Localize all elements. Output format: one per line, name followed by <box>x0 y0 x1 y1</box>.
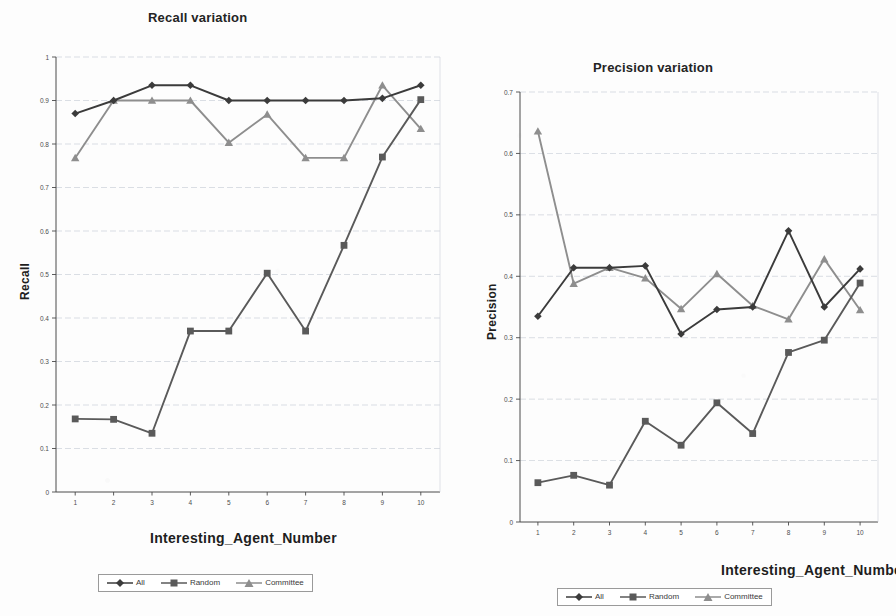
legend-label-random: Random <box>190 579 220 587</box>
recall-x-axis-title: Interesting_Agent_Number <box>150 530 337 546</box>
svg-text:0.6: 0.6 <box>504 150 513 157</box>
svg-text:8: 8 <box>787 529 791 536</box>
svg-text:2: 2 <box>112 499 116 506</box>
svg-text:0.2: 0.2 <box>40 402 49 409</box>
svg-text:10: 10 <box>856 529 864 536</box>
svg-text:0.6: 0.6 <box>40 228 49 235</box>
legend-entry-random-2: Random <box>620 592 679 602</box>
svg-text:0.5: 0.5 <box>40 271 49 278</box>
svg-text:3: 3 <box>150 499 154 506</box>
legend-entry-all-2: All <box>566 592 604 602</box>
legend-entry-random: Random <box>161 578 220 588</box>
svg-text:10: 10 <box>417 499 425 506</box>
svg-text:1: 1 <box>73 499 77 506</box>
svg-text:0.8: 0.8 <box>40 141 49 148</box>
legend-label-all: All <box>136 579 145 587</box>
svg-text:0.5: 0.5 <box>504 211 513 218</box>
precision-plot-area: 00.10.20.30.40.50.60.712345678910 <box>455 0 896 560</box>
svg-text:0.1: 0.1 <box>40 445 49 452</box>
svg-text:0.9: 0.9 <box>40 97 49 104</box>
legend-label-committee: Committee <box>265 579 304 587</box>
svg-text:9: 9 <box>381 499 385 506</box>
figure-page: Recall variation Recall Interesting_Agen… <box>0 0 896 616</box>
diamond-marker-icon <box>566 592 592 602</box>
svg-text:3: 3 <box>608 529 612 536</box>
precision-chart-panel: Precision variation Precision Interestin… <box>455 0 896 616</box>
svg-text:9: 9 <box>822 529 826 536</box>
svg-text:5: 5 <box>679 529 683 536</box>
diamond-marker-icon <box>107 578 133 588</box>
recall-plot-area: 00.10.20.30.40.50.60.70.80.9112345678910 <box>0 0 455 520</box>
svg-text:0.4: 0.4 <box>504 273 513 280</box>
svg-text:0.1: 0.1 <box>504 457 513 464</box>
svg-text:0.3: 0.3 <box>504 334 513 341</box>
svg-text:0.3: 0.3 <box>40 358 49 365</box>
recall-legend: All Random Committee <box>98 574 313 592</box>
svg-text:0.2: 0.2 <box>504 396 513 403</box>
svg-text:0.7: 0.7 <box>504 89 513 96</box>
recall-chart-panel: Recall variation Recall Interesting_Agen… <box>0 0 455 616</box>
svg-text:7: 7 <box>304 499 308 506</box>
svg-text:0: 0 <box>509 519 513 526</box>
triangle-marker-icon <box>236 578 262 588</box>
legend-label-random: Random <box>649 593 679 601</box>
legend-entry-committee: Committee <box>236 578 304 588</box>
square-marker-icon <box>161 578 187 588</box>
svg-text:4: 4 <box>643 529 647 536</box>
svg-text:7: 7 <box>751 529 755 536</box>
svg-text:0.7: 0.7 <box>40 184 49 191</box>
svg-text:5: 5 <box>227 499 231 506</box>
precision-x-axis-title: Interesting_Agent_Number <box>721 562 896 578</box>
svg-text:0.4: 0.4 <box>40 315 49 322</box>
svg-text:0: 0 <box>45 489 49 496</box>
legend-entry-committee-2: Committee <box>695 592 763 602</box>
svg-text:2: 2 <box>572 529 576 536</box>
square-marker-icon <box>620 592 646 602</box>
svg-text:6: 6 <box>265 499 269 506</box>
legend-label-committee: Committee <box>724 593 763 601</box>
legend-entry-all: All <box>107 578 145 588</box>
svg-text:1: 1 <box>536 529 540 536</box>
svg-text:6: 6 <box>715 529 719 536</box>
legend-label-all: All <box>595 593 604 601</box>
svg-text:4: 4 <box>189 499 193 506</box>
triangle-marker-icon <box>695 592 721 602</box>
precision-legend: All Random Committee <box>557 588 772 606</box>
svg-text:8: 8 <box>342 499 346 506</box>
svg-text:1: 1 <box>45 54 49 61</box>
